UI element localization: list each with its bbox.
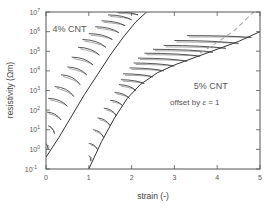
cycle-curve — [115, 93, 130, 99]
annotation-3: offset by ε = 1 — [170, 98, 220, 107]
x-axis-title: strain (-) — [137, 191, 169, 201]
cycle-curve — [84, 41, 106, 47]
annotations: 4% CNT5% CNToffset by ε = 1 — [51, 24, 228, 108]
cycle-curve — [89, 155, 91, 161]
x-tick-label: 2 — [130, 174, 134, 181]
plot-area — [46, 12, 260, 169]
resistivity-strain-chart: 01234510710610510410310210110010-1 strai… — [0, 0, 276, 209]
cycle-curve — [93, 130, 104, 138]
cycle-curve — [80, 49, 99, 55]
x-tick-label: 3 — [172, 174, 176, 181]
cycle-curve — [104, 108, 117, 116]
cycle-curve — [78, 47, 99, 55]
cycle-curve — [89, 144, 98, 150]
y-tick-label: 103 — [29, 85, 40, 94]
y-tick-label: 106 — [29, 26, 40, 35]
annotation-1: 4% CNT — [52, 24, 87, 34]
y-tick-label: 10-1 — [25, 164, 37, 173]
y-tick-label: 102 — [29, 105, 40, 114]
y-axis-title: resistivity (Ωm) — [5, 62, 15, 119]
cycle-curve — [189, 37, 251, 38]
y-tick-label: 100 — [29, 144, 40, 153]
cycle-curve — [82, 40, 106, 48]
cycle-curve — [47, 112, 61, 120]
cycle-curve — [74, 59, 93, 65]
x-tick-label: 0 — [44, 174, 48, 181]
cycle-curve — [110, 100, 123, 106]
y-tick-label: 105 — [29, 46, 40, 55]
x-tick-label: 5 — [258, 174, 262, 181]
y-tick-label: 107 — [29, 7, 40, 16]
cycle-curve — [72, 57, 93, 65]
cycle-curve — [48, 98, 67, 106]
cycle-curve — [97, 118, 110, 126]
x-tick-label: 1 — [87, 174, 91, 181]
cycle-curve — [69, 69, 86, 75]
x-tick-label: 4 — [215, 174, 219, 181]
cycle-curve — [67, 67, 86, 75]
y-tick-label: 104 — [29, 65, 40, 74]
y-tick-label: 101 — [29, 124, 40, 133]
annotation-2: 5% CNT — [194, 81, 229, 91]
